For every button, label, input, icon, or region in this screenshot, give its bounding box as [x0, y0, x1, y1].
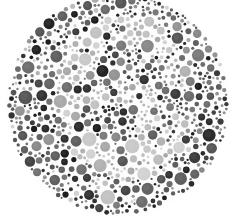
ishihara-plate-container: Circular mosaic of colored dots forming …: [0, 0, 235, 216]
ishihara-plate-canvas: [0, 0, 235, 216]
